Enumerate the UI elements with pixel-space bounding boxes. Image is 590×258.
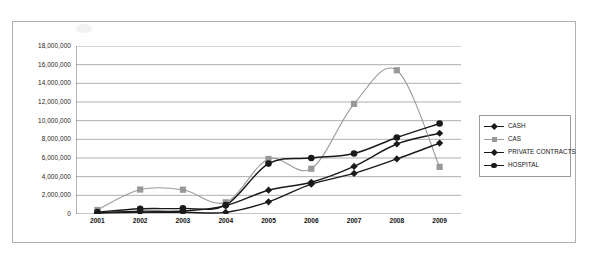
legend-key-diamond-icon: [483, 121, 505, 132]
legend-key-circle-icon: [483, 160, 505, 171]
data-point-circle: [351, 150, 358, 157]
data-point-square: [137, 186, 143, 192]
legend-item-cash[interactable]: CASH: [483, 120, 567, 133]
data-point-diamond: [265, 198, 272, 205]
data-point-circle: [222, 202, 229, 209]
y-axis-tick-label: 10,000,000: [38, 117, 71, 123]
chart-frame: 02,000,0004,000,0006,000,0008,000,00010,…: [12, 21, 576, 243]
y-axis-tick-label: 4,000,000: [42, 173, 71, 179]
data-point-square: [351, 101, 357, 107]
x-axis-tick-label: 2002: [133, 218, 148, 225]
legend-marker-diamond-icon: [491, 149, 497, 155]
data-point-circle: [394, 134, 401, 141]
data-point-diamond: [436, 139, 443, 146]
x-axis-tick-label: 2007: [347, 218, 362, 225]
legend-label: HOSPITAL: [508, 162, 539, 168]
chart-legend: CASHCASPRIVATE CONTRACTSHOSPITAL: [479, 115, 571, 177]
legend-marker-diamond-icon: [491, 123, 497, 129]
data-point-diamond: [265, 187, 272, 194]
plot-area: [76, 46, 461, 214]
legend-marker-square-icon: [492, 137, 497, 142]
x-axis-tick-label: 2001: [90, 218, 105, 225]
legend-label: CAS: [508, 136, 521, 142]
x-axis-tick-label: 2005: [261, 218, 276, 225]
y-axis-tick-label: 6,000,000: [42, 155, 71, 161]
chart-plot-container: 02,000,0004,000,0006,000,0008,000,00010,…: [13, 22, 575, 242]
legend-label: CASH: [508, 123, 526, 129]
data-point-square: [308, 166, 314, 172]
data-point-circle: [180, 205, 187, 212]
y-axis-tick-label: 18,000,000: [38, 43, 71, 49]
data-point-diamond: [393, 155, 400, 162]
x-axis-tick-label: 2009: [432, 218, 447, 225]
chart-svg: [76, 46, 461, 214]
x-axis-tick-label: 2004: [218, 218, 233, 225]
y-axis-tick-label: 8,000,000: [42, 136, 71, 142]
legend-item-private-contracts[interactable]: PRIVATE CONTRACTS: [483, 146, 567, 159]
legend-marker-circle-icon: [491, 163, 496, 168]
data-point-square: [394, 67, 400, 73]
y-axis-tick-label: 12,000,000: [38, 99, 71, 105]
data-point-circle: [265, 160, 272, 167]
y-axis-tick-label: 16,000,000: [38, 61, 71, 67]
data-point-diamond: [350, 170, 357, 177]
legend-label: PRIVATE CONTRACTS: [508, 149, 576, 155]
data-point-square: [437, 164, 443, 170]
legend-key-square-icon: [483, 134, 505, 145]
x-axis-tick-labels: 200120022003200420052006200720082009: [76, 218, 461, 234]
data-point-circle: [308, 155, 315, 162]
data-point-circle: [436, 120, 443, 127]
x-axis-tick-label: 2008: [389, 218, 404, 225]
data-point-diamond: [350, 163, 357, 170]
y-axis-tick-label: 14,000,000: [38, 80, 71, 86]
data-point-diamond: [222, 209, 229, 214]
legend-item-cas[interactable]: CAS: [483, 133, 567, 146]
y-axis-tick-labels: 02,000,0004,000,0006,000,0008,000,00010,…: [13, 46, 71, 214]
legend-item-hospital[interactable]: HOSPITAL: [483, 159, 567, 172]
y-axis-tick-label: 0: [67, 211, 71, 217]
x-axis-tick-label: 2003: [176, 218, 191, 225]
legend-key-diamond-icon: [483, 147, 505, 158]
data-point-diamond: [436, 130, 443, 137]
scan-artifact: [76, 24, 92, 33]
data-point-square: [180, 187, 186, 193]
y-axis-tick-label: 2,000,000: [42, 192, 71, 198]
x-axis-tick-label: 2006: [304, 218, 319, 225]
data-point-diamond: [393, 140, 400, 147]
data-point-circle: [137, 205, 144, 212]
